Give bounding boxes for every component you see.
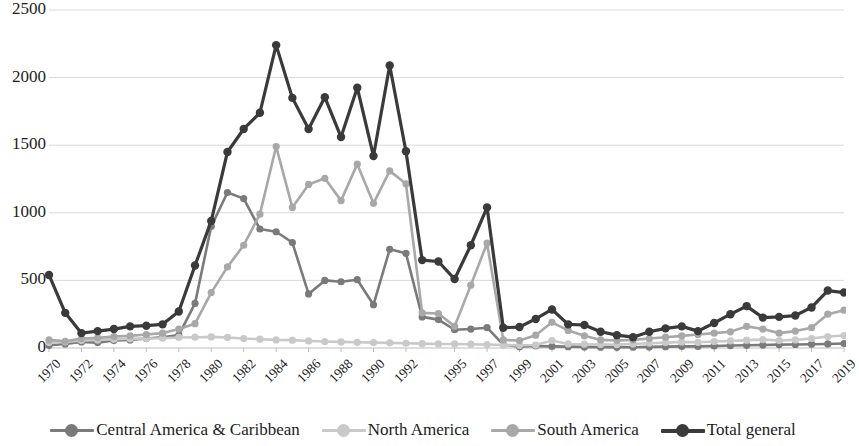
data-point xyxy=(727,328,734,335)
data-point xyxy=(467,241,475,249)
data-point xyxy=(776,337,783,344)
data-point xyxy=(450,275,458,283)
legend-marker-icon xyxy=(322,422,366,438)
legend-item[interactable]: Total general xyxy=(661,420,796,440)
data-point xyxy=(548,337,555,344)
data-point xyxy=(337,133,345,141)
data-point xyxy=(224,189,231,196)
data-point xyxy=(564,320,572,328)
data-point xyxy=(240,242,247,249)
data-point xyxy=(727,337,734,344)
data-point xyxy=(158,320,166,328)
data-point xyxy=(515,323,523,331)
data-point xyxy=(142,321,150,329)
data-point xyxy=(369,152,377,160)
data-point xyxy=(661,324,669,332)
data-point xyxy=(127,332,134,339)
data-point xyxy=(191,320,198,327)
legend-item[interactable]: Central America & Caribbean xyxy=(50,420,299,440)
legend-dot xyxy=(337,424,350,437)
data-point xyxy=(840,332,846,339)
series-3 xyxy=(45,41,846,341)
data-point xyxy=(191,300,198,307)
series-2 xyxy=(45,143,846,345)
data-point xyxy=(824,333,831,340)
data-point xyxy=(840,340,846,347)
data-point xyxy=(321,93,329,101)
data-point xyxy=(175,334,182,341)
data-point xyxy=(191,334,198,341)
data-point xyxy=(402,250,409,257)
data-point xyxy=(93,327,101,335)
data-point xyxy=(175,307,183,315)
data-point xyxy=(500,336,507,343)
data-point xyxy=(402,180,409,187)
data-point xyxy=(110,325,118,333)
data-point xyxy=(321,277,328,284)
data-point xyxy=(694,339,701,346)
data-point xyxy=(467,341,474,348)
legend-dot xyxy=(65,424,78,437)
data-point xyxy=(581,332,588,339)
data-point xyxy=(289,204,296,211)
data-point xyxy=(743,323,750,330)
data-point xyxy=(224,263,231,270)
series-line xyxy=(49,147,844,342)
data-point xyxy=(694,327,702,335)
data-point xyxy=(354,339,361,346)
data-point xyxy=(824,340,831,347)
data-point xyxy=(272,41,280,49)
legend-marker-icon xyxy=(50,422,94,438)
legend-label: South America xyxy=(537,420,639,440)
data-point xyxy=(223,148,231,156)
data-point xyxy=(273,336,280,343)
data-point xyxy=(305,337,312,344)
data-point xyxy=(224,334,231,341)
data-point xyxy=(613,331,621,339)
legend-item[interactable]: South America xyxy=(491,420,639,440)
data-point xyxy=(434,257,442,265)
data-point xyxy=(126,322,134,330)
data-point xyxy=(240,335,247,342)
data-point xyxy=(662,334,669,341)
data-point xyxy=(516,337,523,344)
data-point xyxy=(824,311,831,318)
data-point xyxy=(581,341,588,348)
data-point xyxy=(370,339,377,346)
data-point xyxy=(483,203,491,211)
data-point xyxy=(467,325,474,332)
legend-marker-icon xyxy=(491,422,535,438)
data-point xyxy=(792,328,799,335)
data-point xyxy=(824,286,832,294)
legend-dot xyxy=(676,424,689,437)
data-point xyxy=(743,337,750,344)
data-point xyxy=(418,256,426,264)
data-point xyxy=(240,195,247,202)
data-point xyxy=(273,228,280,235)
data-point xyxy=(191,261,199,269)
data-point xyxy=(759,336,766,343)
data-point xyxy=(840,307,846,314)
legend-item[interactable]: North America xyxy=(322,420,470,440)
data-point xyxy=(451,340,458,347)
data-point xyxy=(143,331,150,338)
data-point xyxy=(646,335,653,342)
data-point xyxy=(678,332,685,339)
data-point xyxy=(775,313,783,321)
data-point xyxy=(256,109,264,117)
data-point xyxy=(678,322,686,330)
data-point xyxy=(532,341,539,348)
data-point xyxy=(711,338,718,345)
data-point xyxy=(792,336,799,343)
data-point xyxy=(239,125,247,133)
data-point xyxy=(565,340,572,347)
data-point xyxy=(256,211,263,218)
data-point xyxy=(451,323,458,330)
data-point xyxy=(288,94,296,102)
data-point xyxy=(304,125,312,133)
data-point xyxy=(208,333,215,340)
data-point xyxy=(289,337,296,344)
data-point xyxy=(386,61,394,69)
data-point xyxy=(759,313,767,321)
data-point xyxy=(305,181,312,188)
